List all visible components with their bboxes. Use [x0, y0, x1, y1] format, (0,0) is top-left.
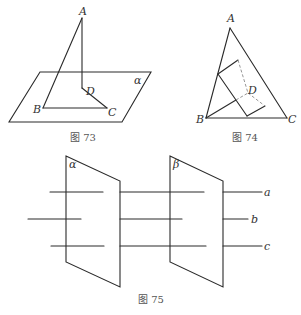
- figure-75: α β a b c 图 75: [28, 156, 271, 305]
- segment-ab: [43, 18, 82, 108]
- label-c: C: [288, 113, 297, 126]
- caption-fig73: 图 73: [70, 132, 96, 143]
- hidden-edge-bd: [236, 93, 248, 100]
- label-plane-alpha: α: [134, 74, 142, 87]
- segment-ab: [206, 28, 230, 118]
- label-plane-alpha: α: [69, 158, 77, 171]
- figure-74: A D B C 图 74: [195, 12, 297, 143]
- label-a: A: [226, 12, 235, 25]
- section-edge-3: [247, 106, 265, 116]
- caption-fig74: 图 74: [232, 132, 258, 143]
- label-d: D: [247, 84, 257, 97]
- figure-73: A D B C α 图 73: [9, 5, 151, 143]
- section-edge-2: [218, 74, 247, 116]
- plane-alpha: [66, 156, 120, 287]
- plane-beta: [170, 156, 223, 287]
- plane-alpha: [9, 72, 151, 122]
- caption-fig75: 图 75: [138, 294, 164, 305]
- label-plane-beta: β: [172, 158, 179, 171]
- figure-canvas: A D B C α 图 73 A D B C 图 74: [0, 0, 301, 315]
- hidden-edge-1: [238, 60, 248, 93]
- label-c: C: [108, 106, 117, 119]
- label-b: B: [32, 103, 41, 116]
- label-line-c: c: [264, 240, 270, 253]
- label-a: A: [78, 5, 87, 18]
- label-line-a: a: [264, 186, 271, 199]
- label-b: B: [195, 113, 204, 126]
- label-line-b: b: [251, 213, 258, 226]
- label-d: D: [85, 85, 95, 98]
